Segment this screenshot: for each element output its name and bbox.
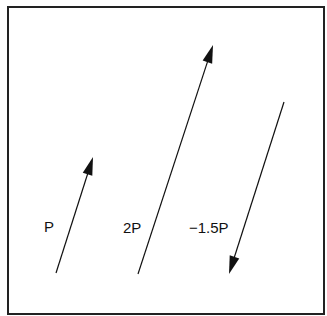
arrowhead-icon bbox=[229, 255, 239, 274]
vector-shaft-1 bbox=[138, 59, 209, 274]
vector-label: −1.5P bbox=[189, 219, 229, 236]
vector-label: P bbox=[44, 218, 54, 235]
vector-shaft-2 bbox=[233, 102, 284, 260]
vector-diagram: P2P−1.5P bbox=[0, 0, 327, 316]
arrowhead-icon bbox=[203, 45, 213, 64]
arrowhead-icon bbox=[83, 157, 93, 176]
vector-shaft-0 bbox=[56, 171, 89, 273]
vector-label: 2P bbox=[123, 219, 141, 236]
